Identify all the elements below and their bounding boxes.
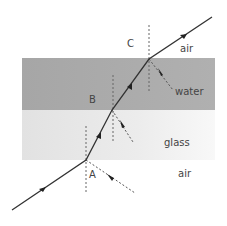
label-point-c: C xyxy=(127,38,134,49)
water-layer xyxy=(22,58,215,110)
label-water: water xyxy=(175,86,204,97)
label-air-top: air xyxy=(180,43,194,54)
label-point-b: B xyxy=(89,94,96,105)
refraction-diagram: C air water B glass A air xyxy=(0,0,227,226)
reflected-arrow-a-icon xyxy=(107,174,114,181)
label-glass: glass xyxy=(164,137,190,148)
label-air-bottom: air xyxy=(178,168,192,179)
glass-layer xyxy=(22,110,215,160)
label-point-a: A xyxy=(89,169,96,180)
